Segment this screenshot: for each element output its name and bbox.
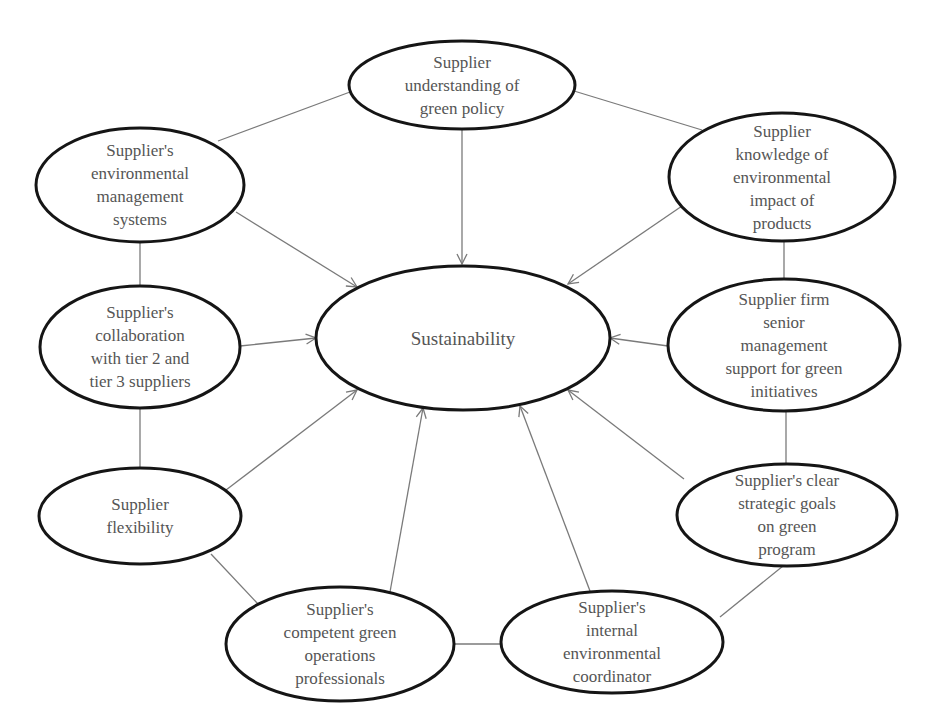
node-label-flexibility: Supplier flexibility xyxy=(39,468,241,564)
node-label-env-mgmt-systems: Supplier's environmental management syst… xyxy=(36,128,244,242)
ring-link-strategic-goals-to-env-coordinator xyxy=(720,566,783,617)
node-label-strategic-goals: Supplier's clear strategic goals on gree… xyxy=(677,464,897,566)
arrow-senior-mgmt-support-to-center xyxy=(610,338,668,346)
node-label-green-policy: Supplier understanding of green policy xyxy=(349,41,575,129)
arrow-tier-collaboration-to-center xyxy=(240,338,316,346)
arrow-env-coordinator-to-center xyxy=(520,406,590,591)
node-label-senior-mgmt-support: Supplier firm senior management support … xyxy=(668,279,900,411)
node-label-green-professionals: Supplier's competent green operations pr… xyxy=(226,587,454,701)
arrow-green-professionals-to-center xyxy=(390,408,423,592)
node-label-env-coordinator: Supplier's internal environmental coordi… xyxy=(501,591,723,693)
node-label-sustainability: Sustainability xyxy=(316,266,610,410)
node-label-env-impact-knowledge: Supplier knowledge of environmental impa… xyxy=(669,113,895,241)
node-label-tier-collaboration: Supplier's collaboration with tier 2 and… xyxy=(40,286,240,408)
